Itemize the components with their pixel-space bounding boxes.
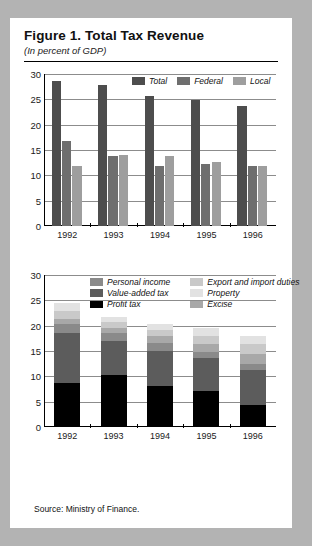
chart1-plot-area: 05101520253019921993199419951996 (44, 74, 276, 226)
gridline (44, 74, 276, 75)
segment-personal-income-1994 (147, 343, 173, 351)
page-title: Figure 1. Total Tax Revenue (24, 28, 278, 43)
bar-total-1996 (237, 106, 246, 226)
bar-federal-1995 (201, 164, 210, 226)
segment-value-added-tax-1994 (147, 351, 173, 386)
segment-value-added-tax-1996 (240, 370, 266, 404)
segment-value-added-tax-1992 (54, 333, 80, 383)
y-axis-tick-label: 20 (30, 119, 41, 130)
segment-export-and-import-duties-1996 (240, 344, 266, 354)
x-axis-tick-label: 1996 (243, 230, 263, 240)
segment-property-1992 (54, 303, 80, 311)
y-axis-tick-label: 30 (30, 270, 41, 281)
segment-export-and-import-duties-1993 (101, 322, 127, 328)
x-axis-tick-label: 1994 (150, 431, 170, 441)
bar-total-1994 (145, 96, 154, 226)
bar-federal-1994 (155, 166, 164, 226)
x-axis-tick-label: 1993 (104, 230, 124, 240)
segment-property-1994 (147, 324, 173, 330)
bar-local-1994 (165, 156, 174, 226)
segment-excise-1994 (147, 336, 173, 343)
y-axis-tick-label: 10 (30, 170, 41, 181)
stacked-bar-1993 (101, 317, 127, 427)
segment-profit-tax-1995 (193, 391, 219, 427)
bar-local-1993 (119, 155, 128, 226)
source-note: Source: Ministry of Finance. (34, 504, 139, 514)
segment-personal-income-1995 (193, 352, 219, 359)
x-axis-tick-label: 1994 (150, 230, 170, 240)
segment-export-and-import-duties-1992 (54, 311, 80, 319)
x-axis-tick (183, 223, 184, 227)
figure-subtitle: (In percent of GDP) (24, 45, 278, 56)
x-axis-tick (137, 424, 138, 428)
segment-export-and-import-duties-1995 (193, 336, 219, 344)
y-axis-tick-label: 30 (30, 69, 41, 80)
segment-value-added-tax-1995 (193, 358, 219, 391)
y-axis-tick-label: 25 (30, 295, 41, 306)
segment-excise-1995 (193, 344, 219, 352)
x-axis-tick (90, 424, 91, 428)
segment-excise-1996 (240, 354, 266, 364)
stacked-bar-1992 (54, 303, 80, 427)
x-axis-tick (90, 223, 91, 227)
bar-total-1995 (191, 100, 200, 226)
segment-personal-income-1996 (240, 364, 266, 371)
y-axis-tick-label: 0 (36, 221, 41, 232)
x-axis-tick-label: 1995 (196, 230, 216, 240)
segment-excise-1992 (54, 319, 80, 324)
gridline (44, 300, 276, 301)
x-axis-tick-label: 1996 (243, 431, 263, 441)
bar-local-1995 (212, 162, 221, 226)
x-axis-tick-label: 1992 (57, 230, 77, 240)
y-axis-tick-label: 15 (30, 346, 41, 357)
y-axis-tick-label: 0 (36, 422, 41, 433)
bar-federal-1992 (62, 141, 71, 226)
stacked-bar-1994 (147, 324, 173, 427)
segment-property-1996 (240, 336, 266, 344)
stacked-bar-1995 (193, 328, 219, 427)
segment-value-added-tax-1993 (101, 341, 127, 375)
chart2-plot-area: 05101520253019921993199419951996 (44, 275, 276, 427)
segment-property-1995 (193, 328, 219, 336)
y-axis-tick-label: 15 (30, 145, 41, 156)
segment-property-1993 (101, 317, 127, 322)
y-axis (44, 74, 45, 226)
bar-federal-1993 (108, 156, 117, 226)
x-axis-tick (230, 223, 231, 227)
x-axis-tick-label: 1992 (57, 431, 77, 441)
chart-total-tax-revenue-by-level: TotalFederalLocal 0510152025301992199319… (20, 74, 282, 249)
x-axis-tick (137, 223, 138, 227)
figure-header: Figure 1. Total Tax Revenue (In percent … (10, 18, 292, 56)
segment-profit-tax-1996 (240, 405, 266, 427)
stacked-bar-1996 (240, 336, 266, 427)
figure-panel: Figure 1. Total Tax Revenue (In percent … (10, 18, 292, 528)
x-axis-tick-label: 1993 (104, 431, 124, 441)
segment-profit-tax-1992 (54, 383, 80, 427)
y-axis-tick-label: 25 (30, 94, 41, 105)
y-axis (44, 275, 45, 427)
x-axis-tick (230, 424, 231, 428)
segment-profit-tax-1993 (101, 375, 127, 427)
x-axis-tick (183, 424, 184, 428)
bar-federal-1996 (248, 166, 257, 226)
bar-total-1992 (52, 81, 61, 226)
segment-personal-income-1992 (54, 324, 80, 333)
y-axis-tick-label: 10 (30, 371, 41, 382)
bar-total-1993 (98, 85, 107, 226)
bar-local-1996 (258, 166, 267, 226)
segment-export-and-import-duties-1994 (147, 330, 173, 337)
y-axis-tick-label: 5 (36, 195, 41, 206)
segment-personal-income-1993 (101, 333, 127, 341)
segment-excise-1993 (101, 328, 127, 333)
x-axis-tick-label: 1995 (196, 431, 216, 441)
gridline (44, 99, 276, 100)
gridline (44, 275, 276, 276)
y-axis-tick-label: 5 (36, 396, 41, 407)
y-axis-tick-label: 20 (30, 320, 41, 331)
chart-tax-revenue-by-component: Personal incomeExport and import dutiesV… (20, 275, 282, 450)
bar-local-1992 (72, 166, 81, 226)
header-divider (24, 61, 278, 62)
segment-profit-tax-1994 (147, 386, 173, 427)
